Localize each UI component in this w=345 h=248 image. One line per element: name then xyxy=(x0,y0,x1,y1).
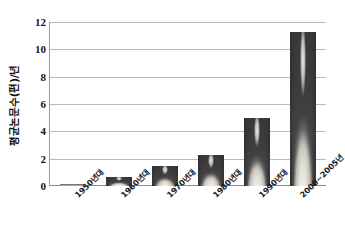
y-tick-label: 4 xyxy=(24,126,46,137)
plot-area xyxy=(49,22,326,186)
y-tick-label: 2 xyxy=(24,153,46,164)
y-tick-label: 10 xyxy=(24,44,46,55)
bar-slot xyxy=(234,22,280,186)
bar-slot xyxy=(50,22,96,186)
bar-2000-2005 xyxy=(290,32,316,186)
bar-slot xyxy=(142,22,188,186)
y-tick-label: 6 xyxy=(24,99,46,110)
y-axis-tick-labels: 12 10 8 6 4 2 0 xyxy=(24,14,46,194)
x-axis-tick-labels: 1950년대 1960년대 1970년대 1980년대 1990년대 2000~… xyxy=(49,186,326,248)
bar-group xyxy=(50,22,326,186)
y-tick-label: 12 xyxy=(24,17,46,28)
bar-1990s xyxy=(244,118,270,186)
y-axis-title: 평균논문수(편)/년 xyxy=(5,38,23,172)
y-tick-label: 8 xyxy=(24,71,46,82)
y-axis-title-text: 평균논문수(편)/년 xyxy=(7,64,22,145)
y-tick-label: 0 xyxy=(24,181,46,192)
bar-slot xyxy=(188,22,234,186)
bar-slot xyxy=(280,22,326,186)
bar-slot xyxy=(96,22,142,186)
